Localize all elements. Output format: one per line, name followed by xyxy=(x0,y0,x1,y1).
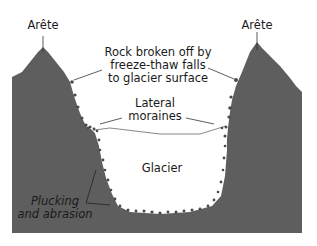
label-plucking-line2: and abrasion xyxy=(18,207,93,221)
moraine-pointer-left xyxy=(100,118,122,124)
label-glacier: Glacier xyxy=(142,161,183,175)
label-arete-right: Arête xyxy=(241,18,272,32)
glacier-diagram: Arête Arête Rock broken off by freeze-th… xyxy=(0,0,317,246)
label-moraines-line1: Lateral xyxy=(135,96,175,110)
moraine-pointer-right xyxy=(186,118,214,124)
label-moraines-line2: moraines xyxy=(128,109,182,123)
label-rockfall-line2: freeze-thaw falls xyxy=(110,58,205,72)
rockfall-pointer-right xyxy=(208,68,234,79)
label-arete-left: Arête xyxy=(27,18,58,32)
label-plucking-line1: Plucking xyxy=(31,194,79,208)
label-rockfall-line3: to glacier surface xyxy=(108,71,208,85)
label-rockfall-line1: Rock broken off by xyxy=(105,45,212,59)
rockfall-pointer-left xyxy=(74,70,102,80)
